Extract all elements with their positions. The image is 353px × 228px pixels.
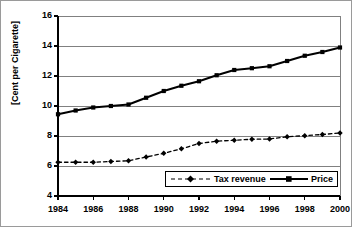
series-tax-revenue: [55, 130, 342, 165]
legend-item-price: Price: [269, 174, 333, 184]
legend-swatch-tax-revenue: [170, 174, 212, 184]
legend-item-tax-revenue: Tax revenue: [170, 174, 266, 184]
legend-label-tax-revenue: Tax revenue: [214, 174, 266, 184]
chart-container: [Cent per Cigarette] 46810121416 1984198…: [0, 0, 353, 228]
chart-legend: Tax revenue Price: [165, 171, 338, 187]
x-axis-ticks: [58, 196, 340, 200]
plot-area: [0, 0, 353, 228]
legend-swatch-price: [269, 174, 309, 184]
legend-label-price: Price: [311, 174, 333, 184]
